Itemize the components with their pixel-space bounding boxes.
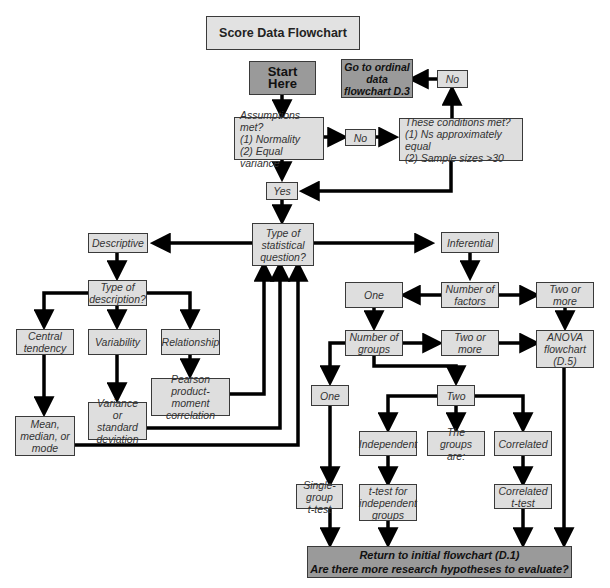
arrow-two-correlated — [474, 396, 523, 428]
descriptive-node: Descriptive — [88, 233, 148, 253]
single-group-t-node: Single-group t-test — [296, 484, 343, 509]
question-type-node: Type of statistical question? — [252, 223, 314, 266]
factors-one-node: One — [345, 282, 403, 308]
groups-are-node: The groups are: — [427, 431, 485, 456]
correlated-t-node: Correlated t-test — [494, 484, 552, 509]
variability-node: Variability — [88, 329, 147, 355]
groups-two-node: Two — [437, 385, 475, 406]
pearson-node: Pearson product-moment correlation — [151, 378, 230, 416]
independent-t-node: t-test for independent groups — [359, 484, 417, 521]
number-of-groups-node: Number of groups — [345, 330, 403, 356]
final-node: Return to initial flowchart (D.1) Are th… — [307, 546, 572, 578]
assumptions-node: Assumptions met? (1) Normality (2) Equal… — [234, 117, 324, 160]
factors-two-more-node: Two or more — [536, 282, 594, 308]
ordinal-node: Go to ordinal data flowchart D.3 — [341, 59, 413, 98]
arrow-type-relationship — [146, 293, 190, 325]
mean-median-mode-node: Mean, median, or mode — [15, 416, 75, 456]
conditions-node: These conditions met? (1) Ns approximate… — [399, 118, 523, 161]
correlated-node: Correlated — [494, 431, 552, 456]
description-type-node: Type of description? — [88, 280, 147, 306]
yes-node: Yes — [266, 182, 298, 200]
arrow-groups-one — [330, 343, 345, 381]
arrow-pearson-question — [230, 266, 264, 394]
arrow-two-independent — [388, 396, 438, 428]
central-tendency-node: Central tendency — [16, 329, 74, 355]
groups-one-node: One — [311, 385, 349, 406]
inferential-node: Inferential — [441, 232, 499, 253]
relationship-node: Relationship — [161, 329, 220, 355]
flowchart-title: Score Data Flowchart — [206, 16, 360, 50]
no-node-upper: No — [437, 70, 468, 88]
anova-node: ANOVA flowchart (D.5) — [536, 330, 594, 368]
variance-sd-node: Variance or standard deviation — [88, 402, 147, 440]
no-node: No — [345, 129, 376, 146]
arrow-groups-two — [374, 356, 456, 381]
number-of-factors-node: Number of factors — [441, 282, 499, 308]
arrow-conditions-yes — [304, 160, 451, 191]
arrow-type-central — [44, 293, 88, 325]
start-node: Start Here — [249, 61, 316, 95]
independent-node: Independent — [359, 431, 417, 456]
groups-two-more-node: Two or more — [441, 330, 499, 356]
